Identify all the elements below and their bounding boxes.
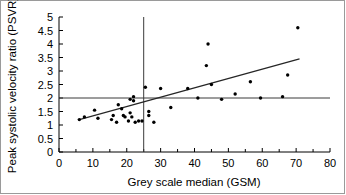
data-point bbox=[137, 119, 140, 122]
data-point bbox=[233, 92, 236, 95]
data-point bbox=[78, 118, 81, 121]
scatter-plot-figure: 01020304050607080 00.511.522.533.544.55 … bbox=[0, 0, 346, 195]
data-point bbox=[210, 83, 213, 86]
x-tick-label: 40 bbox=[188, 157, 200, 169]
x-tick-label: 20 bbox=[121, 157, 133, 169]
data-point bbox=[132, 95, 135, 98]
x-tick-label: 70 bbox=[290, 157, 302, 169]
data-point bbox=[152, 121, 155, 124]
data-point bbox=[115, 121, 118, 124]
data-point bbox=[259, 96, 262, 99]
data-point bbox=[128, 98, 131, 101]
x-tick-label: 80 bbox=[324, 157, 336, 169]
x-tick-label: 30 bbox=[155, 157, 167, 169]
y-tick-label: 3 bbox=[47, 65, 53, 77]
data-point bbox=[93, 108, 96, 111]
data-point bbox=[249, 80, 252, 83]
data-point bbox=[186, 87, 189, 90]
data-point bbox=[110, 118, 113, 121]
y-tick-label: 2 bbox=[47, 92, 53, 104]
x-axis-title: Grey scale median (GSM) bbox=[128, 176, 261, 188]
data-point bbox=[120, 107, 123, 110]
y-tick-label: 4 bbox=[47, 38, 53, 50]
data-point bbox=[220, 98, 223, 101]
data-point bbox=[159, 87, 162, 90]
axes-group bbox=[59, 17, 330, 152]
data-point bbox=[144, 86, 147, 89]
tick-marks-group bbox=[59, 17, 330, 152]
y-tick-labels: 00.511.522.533.544.55 bbox=[38, 11, 53, 158]
data-point bbox=[112, 114, 115, 117]
y-tick-label: 5 bbox=[47, 11, 53, 23]
data-point bbox=[117, 103, 120, 106]
data-point bbox=[286, 73, 289, 76]
data-point bbox=[147, 110, 150, 113]
y-tick-label: 1 bbox=[47, 119, 53, 131]
y-tick-label: 0 bbox=[47, 146, 53, 158]
data-point bbox=[206, 42, 209, 45]
regression-line bbox=[79, 59, 299, 120]
y-tick-label: 2.5 bbox=[38, 79, 53, 91]
y-tick-label: 1.5 bbox=[38, 106, 53, 118]
data-point bbox=[134, 121, 137, 124]
x-tick-label: 60 bbox=[256, 157, 268, 169]
reference-lines-group bbox=[59, 17, 330, 152]
x-tick-label: 50 bbox=[222, 157, 234, 169]
data-point bbox=[196, 96, 199, 99]
data-point bbox=[205, 64, 208, 67]
data-point bbox=[147, 114, 150, 117]
data-point bbox=[130, 115, 133, 118]
data-point bbox=[83, 115, 86, 118]
data-point bbox=[140, 119, 143, 122]
y-axis-title: Peak systolic velocity ratio (PSVR) bbox=[6, 0, 18, 173]
data-point bbox=[127, 119, 130, 122]
y-tick-label: 3.5 bbox=[38, 52, 53, 64]
data-point bbox=[281, 95, 284, 98]
data-point bbox=[296, 26, 299, 29]
data-point bbox=[96, 117, 99, 120]
data-point bbox=[132, 99, 135, 102]
x-tick-labels: 01020304050607080 bbox=[56, 157, 336, 169]
y-tick-label: 4.5 bbox=[38, 25, 53, 37]
y-tick-label: 0.5 bbox=[38, 133, 53, 145]
x-tick-label: 10 bbox=[87, 157, 99, 169]
data-points-group bbox=[78, 26, 300, 124]
data-point bbox=[123, 115, 126, 118]
data-point bbox=[169, 106, 172, 109]
x-tick-label: 0 bbox=[56, 157, 62, 169]
regression-line-segment bbox=[79, 59, 299, 120]
plot-canvas: 01020304050607080 00.511.522.533.544.55 … bbox=[0, 0, 346, 195]
data-point bbox=[128, 111, 131, 114]
